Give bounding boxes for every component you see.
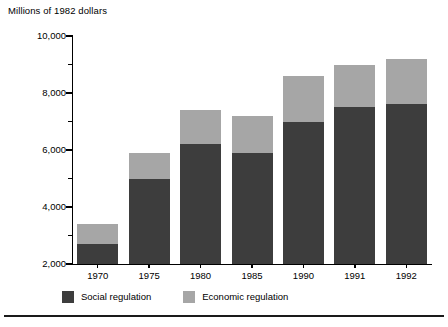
legend-item-economic: Economic regulation [183, 291, 288, 303]
bar-segment-social [386, 104, 427, 264]
bar-1992 [386, 59, 427, 264]
legend-label-social: Social regulation [81, 291, 151, 303]
x-axis-tick-label: 1991 [330, 270, 380, 281]
bottom-divider [4, 315, 444, 317]
x-axis-tick-label: 1985 [227, 270, 277, 281]
bar-segment-economic [129, 153, 170, 179]
bar-1991 [334, 65, 375, 265]
chart-figure: Millions of 1982 dollars 2,0004,0006,000… [0, 0, 448, 327]
y-axis-tick-label: 8,000 [0, 88, 66, 98]
bar-segment-economic [77, 224, 118, 244]
plot-area [72, 36, 432, 264]
bar-segment-social [180, 144, 221, 264]
y-axis-tick-label: 4,000 [0, 202, 66, 212]
x-axis-tick-label: 1975 [124, 270, 174, 281]
bar-segment-economic [180, 110, 221, 144]
bar-segment-social [77, 244, 118, 264]
bar-1975 [129, 153, 170, 264]
bar-segment-economic [232, 116, 273, 153]
x-axis-tick-label: 1970 [73, 270, 123, 281]
x-tick [148, 264, 149, 268]
bar-segment-economic [334, 65, 375, 108]
y-axis-tick-label: 2,000 [0, 259, 66, 269]
bar-segment-economic [283, 76, 324, 122]
x-tick [354, 264, 355, 268]
x-axis-tick-label: 1990 [278, 270, 328, 281]
bar-1970 [77, 224, 118, 264]
y-axis-tick-label: 6,000 [0, 145, 66, 155]
legend-item-social: Social regulation [62, 291, 151, 303]
x-tick [406, 264, 407, 268]
x-axis-tick-label: 1980 [176, 270, 226, 281]
x-tick [97, 264, 98, 268]
legend-label-economic: Economic regulation [202, 291, 288, 303]
legend-swatch-economic [183, 291, 195, 303]
bar-segment-economic [386, 59, 427, 105]
chart-title: Millions of 1982 dollars [8, 5, 107, 17]
bar-segment-social [129, 179, 170, 265]
bar-1980 [180, 110, 221, 264]
x-axis-tick-label: 1992 [381, 270, 431, 281]
bar-segment-social [283, 122, 324, 265]
chart-legend: Social regulation Economic regulation [62, 290, 288, 304]
y-axis-tick-label: 10,000 [0, 31, 66, 41]
bar-segment-social [232, 153, 273, 264]
x-tick [251, 264, 252, 268]
legend-swatch-social [62, 291, 74, 303]
bar-1990 [283, 76, 324, 264]
x-tick [303, 264, 304, 268]
bar-1985 [232, 116, 273, 264]
bar-segment-social [334, 107, 375, 264]
x-tick [200, 264, 201, 268]
